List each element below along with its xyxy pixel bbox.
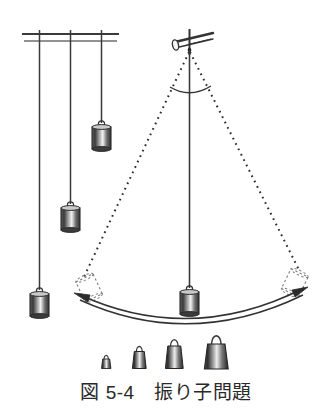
caption-number: 図 5-4 <box>80 382 134 404</box>
dotted-string-right <box>190 52 300 272</box>
weights-set <box>102 336 229 369</box>
fixed-pendulums-group <box>22 30 119 318</box>
figure-caption: 図 5-4 振り子問題 <box>0 376 332 410</box>
pendulum-diagram-canvas <box>0 0 332 416</box>
weight-small <box>132 346 146 368</box>
figure-pendulum-problem: 図 5-4 振り子問題 <box>0 0 332 416</box>
pendulum-swinging <box>74 29 309 324</box>
weight-smallest <box>102 355 111 368</box>
weight-medium <box>165 340 183 369</box>
caption-title: 振り子問題 <box>154 382 252 404</box>
pendulum-bob-1 <box>30 288 49 319</box>
pendulum-medium <box>53 30 88 232</box>
dotted-string-left <box>84 52 189 277</box>
swing-angle-arc <box>170 86 211 93</box>
pendulum-bob-2 <box>61 202 80 233</box>
support-rod <box>171 33 213 51</box>
pendulum-bob-swing <box>180 286 199 317</box>
arrow-head-right <box>292 287 308 297</box>
pendulum-bob-3 <box>92 121 111 152</box>
pendulum-short-left <box>22 30 57 318</box>
caption-gap <box>135 382 155 404</box>
pendulum-long <box>84 30 119 151</box>
weight-large <box>204 336 228 369</box>
